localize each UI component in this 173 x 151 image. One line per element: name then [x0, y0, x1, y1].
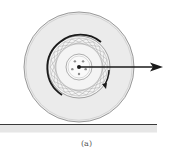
bolt: [84, 68, 86, 70]
bolt: [82, 60, 84, 62]
bolt: [78, 73, 80, 75]
bolt: [71, 68, 73, 70]
wheel-diagram: (a): [0, 0, 173, 151]
figure-caption: (a): [0, 139, 173, 148]
bolt: [74, 60, 76, 62]
ground-fill: [0, 125, 157, 133]
ground: [0, 125, 157, 133]
